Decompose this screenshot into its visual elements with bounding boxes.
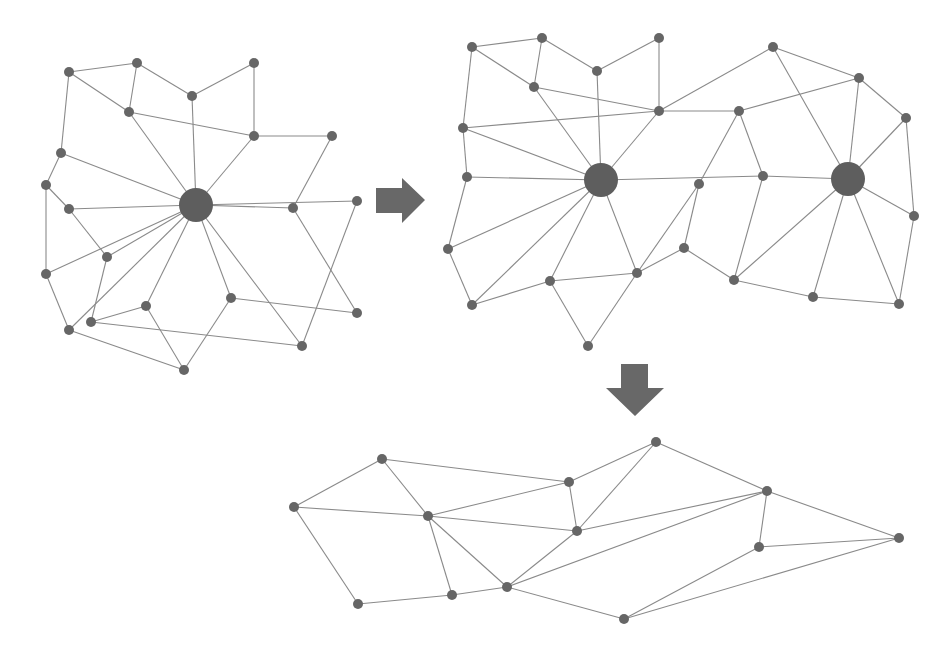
edge-P-U (146, 306, 184, 370)
edge-G3-F3 (358, 595, 452, 604)
edge-a-g (463, 47, 472, 128)
node-K3 (894, 533, 904, 543)
edge-E-F (129, 112, 254, 136)
node-w (894, 299, 904, 309)
edge-E3-I3 (577, 442, 656, 531)
edge-n-o (773, 47, 859, 78)
edge-g-f (463, 111, 659, 128)
edge-O-S (231, 298, 357, 313)
node-S (352, 308, 362, 318)
edge-p-s (699, 111, 739, 184)
edge-q-t (906, 118, 914, 216)
node-l (679, 243, 689, 253)
node-b (537, 33, 547, 43)
arrow-right-icon (376, 178, 425, 223)
edge-G3-H3 (452, 587, 507, 595)
node-e (529, 82, 539, 92)
node-C (187, 91, 197, 101)
edge-HUB-N (46, 205, 196, 274)
node-r (758, 171, 768, 181)
node-O (226, 293, 236, 303)
node-d (654, 33, 664, 43)
node-J3 (762, 486, 772, 496)
edge-L-T (302, 201, 357, 346)
node-N (41, 269, 51, 279)
edge-I3-J3 (656, 442, 767, 491)
edge-i-m (448, 249, 472, 305)
edge-g-h (463, 128, 467, 177)
edge-E3-J3 (577, 491, 767, 531)
edge-g-HUB1 (463, 128, 601, 180)
edge-u-v (734, 280, 813, 297)
node-s (694, 179, 704, 189)
edge-c-d (597, 38, 659, 71)
edge-C3-G3 (428, 516, 452, 595)
edge-H-HUB (61, 153, 196, 205)
edge-A3-C3 (382, 459, 428, 516)
edge-k-l (637, 248, 684, 273)
hub-node-HUB1 (584, 163, 618, 197)
node-G (327, 131, 337, 141)
node-C3 (423, 511, 433, 521)
node-k (632, 268, 642, 278)
edge-J-M (69, 209, 107, 257)
node-M3 (619, 614, 629, 624)
edge-B3-C3 (294, 507, 428, 516)
graph-single-hub (41, 58, 362, 375)
edge-h-i (448, 177, 467, 249)
node-P (141, 301, 151, 311)
edge-K-S (293, 208, 357, 313)
edge-C3-D3 (428, 482, 569, 516)
edge-i-HUB1 (448, 180, 601, 249)
edge-HUB2-v (813, 179, 848, 297)
edge-B3-F3 (294, 507, 358, 604)
edge-J3-L3 (759, 491, 767, 547)
node-F3 (353, 599, 363, 609)
graph-two-hubs (443, 33, 919, 351)
node-f (654, 106, 664, 116)
node-R (64, 325, 74, 335)
node-J (64, 204, 74, 214)
edge-M-Q (91, 257, 107, 322)
node-A (64, 67, 74, 77)
edge-m-HUB1 (472, 180, 601, 305)
edge-HUB-L (196, 201, 357, 205)
node-B3 (289, 502, 299, 512)
node-F (249, 131, 259, 141)
edge-e-HUB1 (534, 87, 601, 180)
node-M (102, 252, 112, 262)
graphs-layer (41, 33, 919, 624)
edge-E3-H3 (507, 531, 577, 587)
hub-node-HUB2 (831, 162, 865, 196)
node-t (909, 211, 919, 221)
node-D3 (564, 477, 574, 487)
edge-C3-H3 (428, 516, 507, 587)
edge-B-C (137, 63, 192, 96)
edge-n-HUB2 (773, 47, 848, 179)
edge-H3-J3 (507, 491, 767, 587)
hub-node-HUB (179, 188, 213, 222)
node-U (179, 365, 189, 375)
node-n (768, 42, 778, 52)
edge-HUB-T (196, 205, 302, 346)
node-i (443, 244, 453, 254)
edge-O-U (184, 298, 231, 370)
edge-s-l (684, 184, 699, 248)
edge-A-E (69, 72, 129, 112)
edge-J-HUB (69, 205, 196, 209)
edge-H3-M3 (507, 587, 624, 619)
edge-D3-I3 (569, 442, 656, 482)
node-H (56, 148, 66, 158)
edge-R-U (69, 330, 184, 370)
node-A3 (377, 454, 387, 464)
node-I3 (651, 437, 661, 447)
edge-r-p (739, 111, 763, 176)
edge-r-u (734, 176, 763, 280)
edge-v-w (813, 297, 899, 304)
node-h (462, 172, 472, 182)
edge-C3-E3 (428, 516, 577, 531)
edge-o-q (859, 78, 906, 118)
edge-b-e (534, 38, 542, 87)
edge-J3-K3 (767, 491, 899, 538)
edge-b-c (542, 38, 597, 71)
